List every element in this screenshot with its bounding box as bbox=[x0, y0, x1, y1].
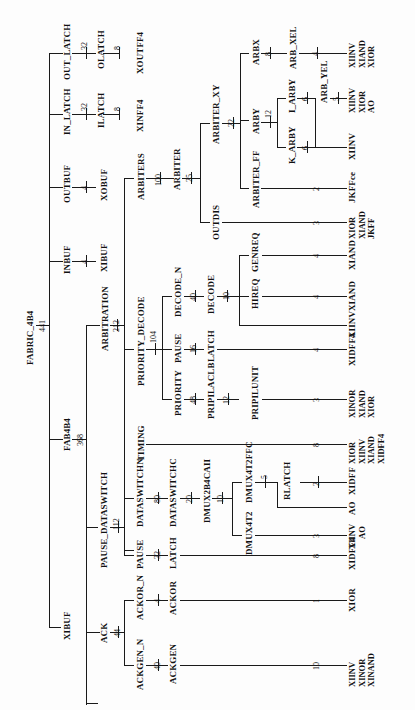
node-count-ilatch: 8 bbox=[114, 107, 122, 111]
node-label-fab4b4: FAB4B4 bbox=[63, 418, 72, 451]
pause-dataswitch-spine bbox=[124, 498, 125, 556]
edge bbox=[155, 343, 156, 355]
edge bbox=[240, 53, 249, 54]
leaf-label: XIDFF4 bbox=[348, 537, 357, 570]
edge bbox=[124, 349, 134, 350]
edge bbox=[86, 325, 100, 326]
node-count-ackgen: 10 bbox=[313, 662, 321, 670]
edge bbox=[200, 222, 210, 223]
edge bbox=[232, 535, 242, 536]
node-count-pause-pd: 16 bbox=[190, 345, 198, 353]
node-label-out-latch: OUT_LATCH bbox=[63, 24, 72, 80]
node-label-dmux2b4cail: DMUX2B4CAII bbox=[203, 459, 212, 523]
arbitration-spine bbox=[124, 178, 125, 550]
edge bbox=[222, 222, 347, 223]
arbiter-spine bbox=[200, 123, 201, 223]
node-count-ackgen-n: 40 bbox=[154, 662, 162, 670]
edge bbox=[124, 178, 134, 179]
edge bbox=[299, 53, 347, 54]
edge bbox=[49, 627, 61, 628]
leaf-label: XIAND bbox=[348, 281, 357, 311]
leaf-label: XIOR bbox=[367, 390, 377, 418]
leaf-label: XIDFF4 bbox=[348, 333, 357, 366]
node-label-arby: ARBY bbox=[252, 108, 261, 134]
edge bbox=[277, 147, 286, 148]
leaf-stack-outdis: XIOR XIAND JKFF bbox=[348, 211, 377, 239]
leaf-label: XIOR bbox=[367, 40, 377, 68]
node-count-priority-decode: 104 bbox=[150, 331, 158, 343]
edge bbox=[239, 325, 347, 326]
node-count-arb-xel: 4 bbox=[312, 52, 320, 56]
node-label-pripilunit: PRIPILUNIT bbox=[251, 366, 260, 420]
node-label-timing: TIMING bbox=[137, 425, 146, 461]
edge bbox=[261, 122, 277, 123]
node-count-arbiter-ff: 2 bbox=[313, 187, 321, 191]
node-label-pause-dataswitch: PAUSE_DATASWITCH bbox=[100, 472, 109, 568]
leaf-label: AO bbox=[367, 88, 377, 113]
dmux-spine bbox=[232, 482, 233, 536]
leaf-label: XIDFF4 bbox=[377, 434, 387, 464]
edge bbox=[232, 482, 242, 483]
node-count-arbiter: 25 bbox=[186, 174, 194, 182]
node-count-rlatch: 2 bbox=[313, 482, 321, 486]
edge bbox=[124, 498, 134, 499]
leaf-stack-pripilunit: XINOR XIAND XIOR bbox=[348, 390, 377, 418]
node-count-arbitration: 212 bbox=[113, 320, 121, 332]
leaf-label: JKFFce bbox=[348, 172, 357, 203]
edge bbox=[262, 255, 347, 256]
node-label-priority: PRIORITY bbox=[174, 370, 183, 416]
edge bbox=[162, 349, 172, 350]
edge bbox=[200, 123, 210, 124]
leaf-label: XOUTFF4 bbox=[136, 32, 145, 74]
node-count-latch-ps: 8 bbox=[313, 554, 321, 558]
node-count-arb-yel: 5 bbox=[333, 97, 341, 101]
node-label-ilatch: ILATCH bbox=[97, 93, 106, 128]
node-label-ackgen: ACKGEN bbox=[169, 644, 178, 684]
edge bbox=[49, 439, 63, 440]
leaf-stack-ackgen: XIINV XINOR XINAND bbox=[348, 653, 377, 687]
node-label-arb-xel: ARB_XEL bbox=[289, 26, 298, 69]
node-count-root: 441 bbox=[39, 320, 47, 332]
leaf-label: JKFF bbox=[367, 211, 377, 239]
edge bbox=[240, 120, 249, 121]
node-label-pause-ps: PAUSE bbox=[136, 540, 145, 569]
leaf-label: XINAND bbox=[367, 653, 377, 687]
node-label-hireq: HIREQ bbox=[251, 278, 260, 309]
edge bbox=[262, 296, 347, 297]
node-label-olatch: OLATCH bbox=[97, 30, 106, 69]
edge bbox=[239, 255, 249, 256]
leaf-label: AO bbox=[358, 524, 368, 549]
node-label-root: FABRIC_4B4 bbox=[26, 311, 35, 365]
leaf-label: XOBUF bbox=[100, 169, 109, 201]
edge bbox=[49, 114, 63, 115]
node-count-ackor-n: 4 bbox=[154, 599, 162, 603]
edge bbox=[124, 550, 134, 551]
edge bbox=[124, 665, 134, 666]
leaf-label: XIBUF bbox=[100, 243, 109, 272]
edge bbox=[217, 349, 347, 350]
edge bbox=[162, 296, 172, 297]
node-label-priority-decode: PRIORITY_DECODE bbox=[137, 296, 146, 386]
edge bbox=[300, 482, 347, 483]
node-count-olatch: 8 bbox=[114, 46, 122, 50]
node-label-dataswitchc: DATASWITCHC bbox=[169, 458, 178, 527]
node-label-outbuf: OUTBUF bbox=[63, 165, 72, 203]
node-label-in-latch: IN_LATCH bbox=[63, 88, 72, 135]
edge bbox=[146, 349, 162, 350]
edge bbox=[180, 665, 347, 666]
node-count-pause-ps: 32 bbox=[154, 551, 162, 559]
leaf-label: XIAND bbox=[348, 240, 357, 270]
node-label-arbitration: ARBITRATION bbox=[101, 286, 110, 351]
node-label-latch-pd: LATCH bbox=[207, 330, 216, 362]
edge bbox=[277, 507, 347, 508]
node-label-arbiters: ARBITERS bbox=[137, 153, 146, 200]
node-count-k-arby: 6 bbox=[302, 146, 310, 150]
i-arby-spine bbox=[315, 98, 316, 148]
node-label-decode: DECODE bbox=[207, 275, 216, 314]
node-count-dataswitchn: 80 bbox=[154, 495, 162, 503]
edge bbox=[72, 114, 96, 115]
node-count-outbuf: 4 bbox=[81, 186, 89, 190]
node-label-arb-yel: ARB_YEL bbox=[320, 60, 329, 103]
node-label-k-arby: K_ARBY bbox=[288, 126, 297, 164]
node-label-latch-ps: LATCH bbox=[169, 537, 178, 569]
